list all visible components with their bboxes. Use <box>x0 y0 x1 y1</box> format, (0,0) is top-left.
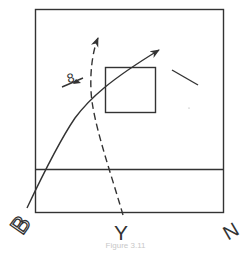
inner-square <box>106 68 156 113</box>
diagonal-segment <box>172 70 198 85</box>
figure-caption: Figure 3.11 <box>0 241 251 250</box>
outer-frame <box>36 10 224 213</box>
dashed-curve-arrow <box>91 38 123 215</box>
diagram-canvas: 8 B Y N <box>0 0 251 253</box>
label-b: B <box>4 210 35 239</box>
small-dot <box>188 107 189 108</box>
symbol-label: 8 <box>65 70 76 86</box>
solid-curve-arrow <box>27 50 159 208</box>
